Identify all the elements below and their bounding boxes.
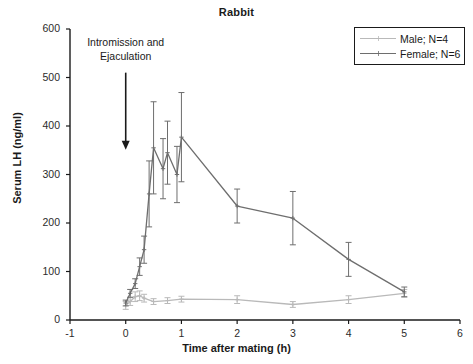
y-tick-label: 200 (26, 216, 60, 228)
y-tick-label: 600 (26, 22, 60, 34)
data-point-marker (179, 297, 183, 301)
data-point-marker (235, 297, 239, 301)
data-point-marker (291, 302, 295, 306)
annotation-arrow (122, 73, 130, 150)
data-point-marker (165, 150, 169, 154)
y-tick-label: 400 (26, 119, 60, 131)
x-tick-label: 6 (449, 327, 471, 339)
data-point-marker (151, 146, 155, 150)
chart-figure: Rabbit Serum LH (ng/ml) Time after matin… (0, 0, 473, 364)
series-male (123, 289, 408, 309)
y-tick-label: 300 (26, 168, 60, 180)
data-point-marker (165, 298, 169, 302)
legend-item-male: Male; N=4 (360, 31, 448, 46)
y-tick-label: 500 (26, 71, 60, 83)
data-point-marker (161, 166, 165, 170)
data-point-marker (128, 291, 132, 295)
x-tick-label: 4 (338, 327, 360, 339)
legend-swatch-female (360, 48, 396, 60)
cross-marker-icon (376, 36, 381, 41)
data-point-marker (175, 172, 179, 176)
cross-marker-icon (376, 51, 381, 56)
legend-label-male: Male; N=4 (400, 33, 448, 45)
x-tick-label: 0 (115, 327, 137, 339)
legend: Male; N=4 Female; N=6 (354, 27, 465, 65)
x-tick-label: 5 (393, 327, 415, 339)
x-tick-label: 3 (282, 327, 304, 339)
data-point-marker (133, 281, 137, 285)
series-female (123, 93, 408, 306)
data-point-marker (147, 192, 151, 196)
data-point-marker (142, 247, 146, 251)
x-tick-label: -1 (59, 327, 81, 339)
legend-label-female: Female; N=6 (400, 48, 460, 60)
y-tick-label: 0 (26, 313, 60, 325)
legend-item-female: Female; N=6 (360, 46, 460, 61)
y-tick-label: 100 (26, 265, 60, 277)
data-point-marker (346, 297, 350, 301)
legend-swatch-male (360, 33, 396, 45)
x-tick-label: 1 (170, 327, 192, 339)
data-point-marker (151, 299, 155, 303)
x-tick-label: 2 (226, 327, 248, 339)
data-point-marker (137, 264, 141, 268)
